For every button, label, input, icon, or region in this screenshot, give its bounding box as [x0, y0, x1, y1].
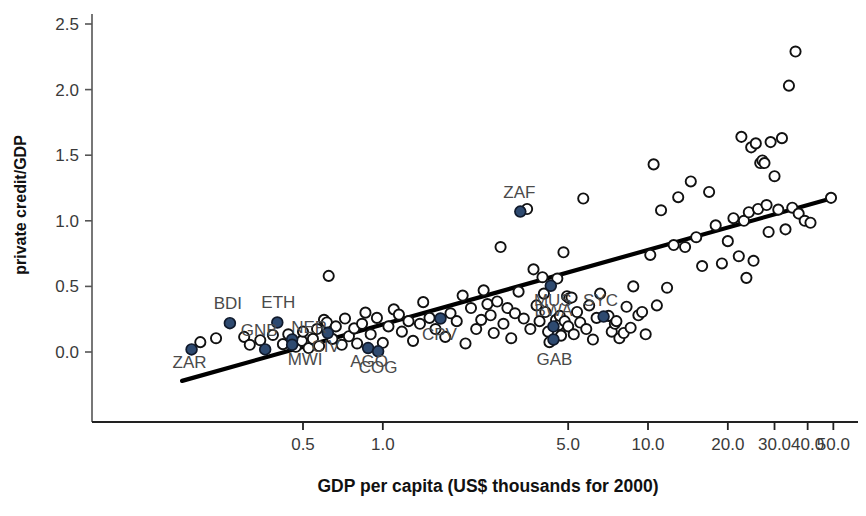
- data-point: [777, 133, 787, 143]
- highlighted-data-point-mus: [545, 280, 556, 291]
- data-point: [761, 200, 771, 210]
- data-point: [728, 213, 738, 223]
- highlighted-data-point-syc: [598, 311, 609, 322]
- data-point: [403, 316, 413, 326]
- data-point: [691, 232, 701, 242]
- point-label-zar: ZAR: [173, 353, 207, 372]
- data-point: [460, 338, 470, 348]
- data-point: [397, 327, 407, 337]
- x-tick-label: 1.0: [371, 435, 395, 454]
- point-label-gab: GAB: [536, 350, 572, 369]
- scatter-chart-figure: ZARBDIGNBETHNERMWICIVAGOCOGCPVZAFMUSBWAG…: [0, 0, 866, 516]
- data-point: [492, 296, 502, 306]
- data-point: [195, 337, 205, 347]
- data-point: [645, 250, 655, 260]
- y-tick-label: 1.0: [55, 212, 79, 231]
- y-tick-label: 2.5: [55, 15, 79, 34]
- data-point: [408, 336, 418, 346]
- point-label-bdi: BDI: [214, 294, 242, 313]
- data-point: [748, 256, 758, 266]
- point-label-bwa: BWA: [534, 301, 573, 320]
- y-axis-title: private credit/GDP: [12, 135, 29, 275]
- data-point: [383, 321, 393, 331]
- data-point: [578, 193, 588, 203]
- data-point: [680, 242, 690, 252]
- data-point: [458, 290, 468, 300]
- data-point: [773, 205, 783, 215]
- highlighted-data-point-gab: [548, 334, 559, 345]
- highlighted-data-point-gnb: [260, 344, 271, 355]
- data-point: [669, 240, 679, 250]
- point-label-eth: ETH: [261, 293, 295, 312]
- data-point: [723, 236, 733, 246]
- x-axis-title: GDP per capita (US$ thousands for 2000): [317, 476, 658, 496]
- data-point: [790, 46, 800, 56]
- x-tick-label: 20.0: [711, 435, 744, 454]
- y-tick-label: 0.0: [55, 343, 79, 362]
- data-point: [495, 242, 505, 252]
- y-tick-label: 2.0: [55, 81, 79, 100]
- y-tick-label: 1.5: [55, 146, 79, 165]
- data-point: [769, 171, 779, 181]
- data-point: [621, 302, 631, 312]
- x-tick-label: 30.0: [758, 435, 791, 454]
- highlighted-data-point-bdi: [224, 318, 235, 329]
- data-point: [759, 158, 769, 168]
- point-label-syc: SYC: [583, 291, 618, 310]
- data-point: [581, 324, 591, 334]
- data-point: [340, 313, 350, 323]
- data-point: [418, 297, 428, 307]
- data-point: [641, 329, 651, 339]
- x-tick-label: 10.0: [631, 435, 664, 454]
- data-point: [656, 205, 666, 215]
- data-point: [324, 271, 334, 281]
- data-point: [686, 176, 696, 186]
- data-point: [489, 328, 499, 338]
- data-point: [245, 340, 255, 350]
- data-point: [697, 261, 707, 271]
- data-point: [734, 251, 744, 261]
- data-point: [519, 313, 529, 323]
- data-point: [525, 324, 535, 334]
- data-point: [736, 132, 746, 142]
- data-point: [673, 192, 683, 202]
- data-point: [366, 329, 376, 339]
- point-label-gnb: GNB: [241, 321, 278, 340]
- regression-line: [182, 198, 831, 380]
- data-point: [826, 193, 836, 203]
- data-point: [766, 137, 776, 147]
- highlighted-data-point-cpv: [435, 313, 446, 324]
- data-point: [360, 308, 370, 318]
- data-point: [662, 283, 672, 293]
- data-point: [611, 316, 621, 326]
- data-point: [513, 287, 523, 297]
- data-point: [466, 303, 476, 313]
- data-point: [479, 285, 489, 295]
- data-point: [506, 333, 516, 343]
- data-point: [637, 307, 647, 317]
- data-point: [569, 329, 579, 339]
- y-tick-label: 0.5: [55, 277, 79, 296]
- data-point: [394, 310, 404, 320]
- highlighted-data-point-mwi: [287, 339, 298, 350]
- data-point: [717, 258, 727, 268]
- data-point: [805, 218, 815, 228]
- point-label-cpv: CPV: [422, 325, 458, 344]
- point-label-cog: COG: [359, 358, 398, 377]
- data-point: [498, 319, 508, 329]
- data-point: [780, 224, 790, 234]
- data-point: [482, 299, 492, 309]
- data-point: [528, 264, 538, 274]
- chart-canvas: ZARBDIGNBETHNERMWICIVAGOCOGCPVZAFMUSBWAG…: [0, 0, 866, 516]
- data-point: [751, 138, 761, 148]
- x-tick-label: 0.5: [291, 435, 315, 454]
- data-point: [741, 273, 751, 283]
- data-point: [486, 310, 496, 320]
- point-label-zaf: ZAF: [503, 183, 535, 202]
- data-point: [784, 81, 794, 91]
- tick-labels-group: 0.00.51.01.52.02.50.51.05.010.020.030.04…: [55, 15, 850, 454]
- data-point: [704, 187, 714, 197]
- data-point: [558, 247, 568, 257]
- data-point: [764, 227, 774, 237]
- data-point: [711, 220, 721, 230]
